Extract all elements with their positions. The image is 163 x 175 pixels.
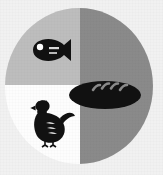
food-groups-pie-diagram [5, 8, 153, 164]
pie-svg [5, 8, 153, 164]
bread-icon [69, 81, 141, 109]
image-canvas [0, 0, 163, 175]
